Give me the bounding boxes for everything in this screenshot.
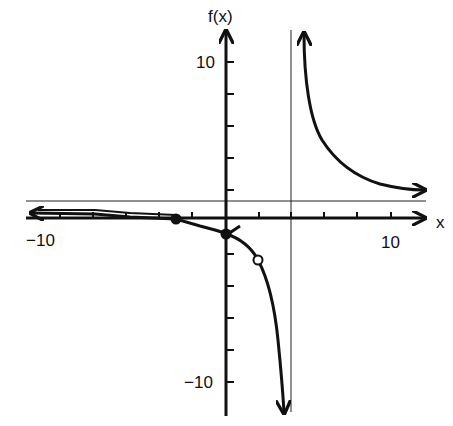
y-axis (226, 32, 234, 416)
filled-point-0-neg1 (221, 229, 232, 240)
x-axis-label: x (436, 213, 445, 232)
function-graph: f(x) x −10 10 10 −10 (0, 0, 453, 426)
x-tick-label-10: 10 (381, 233, 400, 252)
x-tick-label-neg10: −10 (26, 231, 55, 250)
left-branch-curve (32, 213, 240, 234)
y-tick-label-neg10: −10 (184, 373, 213, 392)
filled-point-neg3-0 (171, 214, 182, 225)
right-branch-curve (304, 34, 424, 190)
y-axis-label: f(x) (208, 7, 233, 26)
y-tick-label-10: 10 (196, 53, 215, 72)
open-point-2-neg2.5 (254, 256, 263, 265)
